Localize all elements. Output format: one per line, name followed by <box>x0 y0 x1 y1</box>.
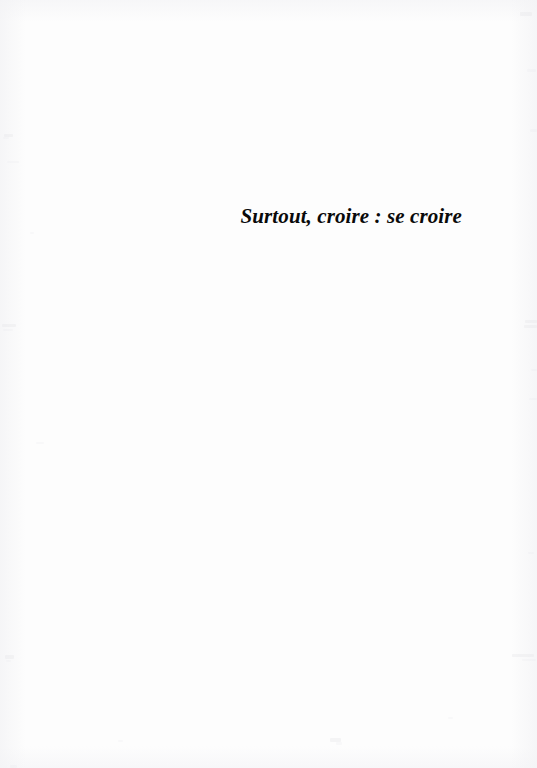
scan-speck <box>36 442 44 444</box>
scan-speck <box>525 320 537 323</box>
scan-speck <box>330 738 341 742</box>
scan-speck <box>2 324 16 327</box>
scan-speck <box>530 129 537 132</box>
scan-speck <box>5 655 14 659</box>
scan-speck <box>520 12 532 16</box>
scan-speck <box>531 369 537 371</box>
scan-speck <box>336 742 342 745</box>
scan-speck <box>528 552 534 554</box>
scan-speck <box>529 398 537 400</box>
scan-speck <box>118 740 123 742</box>
scan-speck <box>524 325 537 328</box>
scan-speck <box>4 134 13 137</box>
scan-speck <box>30 232 34 234</box>
scan-speck <box>6 660 11 662</box>
scan-speck <box>448 717 453 719</box>
scan-speck <box>3 137 9 139</box>
scan-speck <box>512 654 534 657</box>
scan-speck <box>7 161 19 163</box>
scan-speck <box>3 329 13 331</box>
page-title: Surtout, croire : se croire <box>0 204 462 228</box>
scan-speck <box>527 69 536 72</box>
scanned-page: Surtout, croire : se croire <box>0 0 537 768</box>
scan-speck <box>522 659 536 661</box>
